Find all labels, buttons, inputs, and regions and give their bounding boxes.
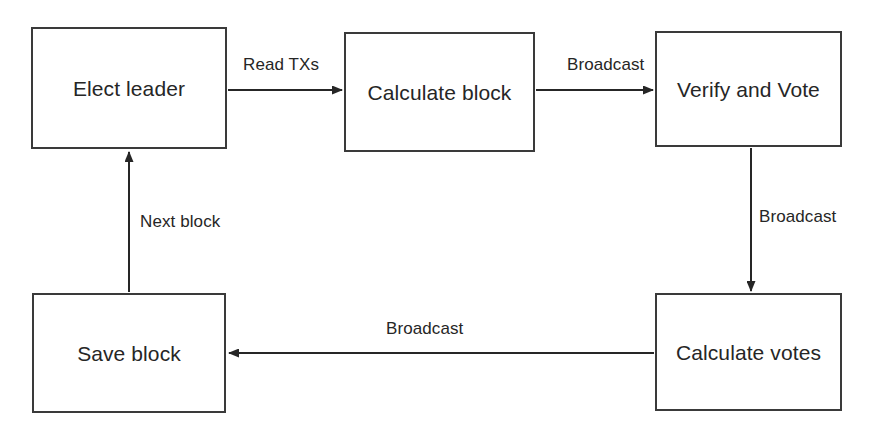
node-save-block[interactable]: Save block <box>32 293 226 413</box>
node-calculate-block-label: Calculate block <box>368 82 512 103</box>
node-verify-and-vote-label: Verify and Vote <box>677 79 820 100</box>
flowchart-diagram: Elect leader Calculate block Verify and … <box>0 0 877 440</box>
edge-label-read-txs: Read TXs <box>243 56 319 73</box>
node-calculate-votes[interactable]: Calculate votes <box>655 293 842 411</box>
node-elect-leader-label: Elect leader <box>73 78 185 99</box>
edge-label-next-block: Next block <box>140 213 220 230</box>
node-save-block-label: Save block <box>77 343 181 364</box>
node-verify-and-vote[interactable]: Verify and Vote <box>655 31 842 147</box>
edge-label-broadcast-block: Broadcast <box>567 56 644 73</box>
node-elect-leader[interactable]: Elect leader <box>31 27 227 149</box>
edge-label-broadcast-result: Broadcast <box>386 320 463 337</box>
edge-label-broadcast-vote: Broadcast <box>759 208 836 225</box>
node-calculate-votes-label: Calculate votes <box>676 342 821 363</box>
node-calculate-block[interactable]: Calculate block <box>344 32 535 152</box>
